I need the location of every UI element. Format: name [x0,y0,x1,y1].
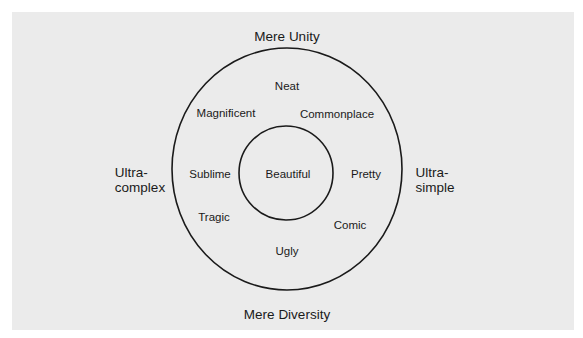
label-ultra-complex-line2: complex [115,180,165,195]
label-ultra-simple-line1: Ultra- [415,165,454,180]
label-ultra-simple: Ultra- simple [415,165,454,195]
label-ugly: Ugly [275,244,298,258]
label-commonplace: Commonplace [300,107,374,121]
label-ultra-simple-line2: simple [415,180,454,195]
label-tragic: Tragic [198,210,230,224]
label-sublime: Sublime [189,167,231,181]
label-ultra-complex: Ultra- complex [115,165,165,195]
label-mere-diversity: Mere Diversity [244,307,330,322]
label-neat: Neat [275,79,299,93]
label-ultra-complex-line1: Ultra- [115,165,165,180]
label-magnificent: Magnificent [197,106,256,120]
label-pretty: Pretty [351,167,381,181]
label-mere-unity: Mere Unity [254,29,319,44]
label-comic: Comic [334,218,367,232]
label-beautiful: Beautiful [266,167,311,181]
